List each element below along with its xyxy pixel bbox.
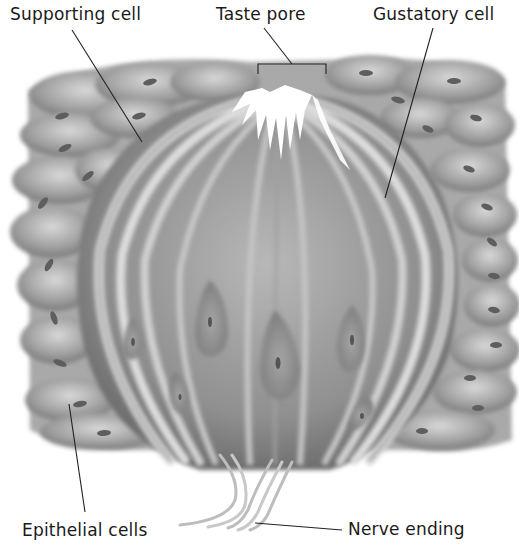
taste-bud-diagram: Supporting cell Taste pore Gustatory cel… [0,0,519,545]
taste-bud-illustration [0,0,519,545]
leader-nerve-ending [255,523,342,530]
leader-taste-pore [264,28,292,64]
label-nerve-ending: Nerve ending [348,519,465,539]
label-supporting-cell: Supporting cell [10,4,141,24]
label-taste-pore: Taste pore [216,4,306,24]
label-epithelial-cells: Epithelial cells [22,520,147,540]
label-gustatory-cell: Gustatory cell [373,4,494,24]
